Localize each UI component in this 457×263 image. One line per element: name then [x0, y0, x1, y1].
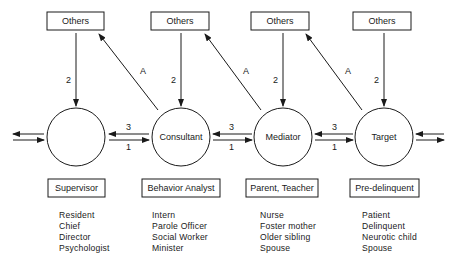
others-label: Others [266, 16, 294, 26]
example-item: Nurse [260, 210, 316, 221]
others-label: Others [166, 16, 194, 26]
node-mediator: Mediator [254, 108, 312, 166]
example-item: Foster mother [260, 221, 316, 232]
example-item: Spouse [362, 243, 417, 254]
node-consultant: Consultant [152, 108, 210, 166]
example-item: Director [59, 232, 110, 243]
role-box-consultant: Behavior Analyst [142, 179, 220, 197]
arrow-a-target-to-others [306, 34, 362, 110]
others-box-mediator: Others [251, 12, 309, 30]
edge-label-2: 2 [374, 75, 379, 85]
example-item: Psychologist [59, 243, 110, 254]
edge-label-a: A [345, 66, 351, 76]
edge-label-3: 3 [332, 122, 337, 132]
role-label: Pre-delinquent [355, 183, 414, 193]
example-item: Delinquent [362, 221, 417, 232]
examples-consultant: Intern Parole Officer Social Worker Mini… [152, 210, 208, 254]
node-target: Target [355, 108, 413, 166]
examples-mediator: Nurse Foster mother Older sibling Spouse [260, 210, 316, 254]
role-box-mediator: Parent, Teacher [246, 179, 318, 197]
edge-label-2: 2 [66, 75, 71, 85]
node-label: Consultant [159, 132, 203, 142]
edge-label-1: 1 [332, 142, 337, 152]
edge-label-1: 1 [126, 142, 131, 152]
arrow-a-mediator-to-others [205, 34, 261, 110]
example-item: Chief [59, 221, 110, 232]
role-box-target: Pre-delinquent [350, 179, 419, 197]
edge-label-3: 3 [126, 122, 131, 132]
example-item: Patient [362, 210, 417, 221]
edge-label-3: 3 [229, 122, 234, 132]
node-label: Target [371, 132, 397, 142]
role-label: Parent, Teacher [250, 183, 313, 193]
example-item: Intern [152, 210, 208, 221]
node-supervisor [47, 108, 105, 166]
edge-label-1: 1 [229, 142, 234, 152]
others-box-supervisor: Others [47, 12, 104, 30]
others-label: Others [368, 16, 396, 26]
others-box-consultant: Others [151, 12, 209, 30]
example-item: Social Worker [152, 232, 208, 243]
example-item: Parole Officer [152, 221, 208, 232]
role-label: Supervisor [55, 183, 98, 193]
edge-label-a: A [243, 66, 249, 76]
arrow-a-consultant-to-others [99, 34, 158, 110]
others-box-target: Others [353, 12, 411, 30]
edge-label-2: 2 [171, 75, 176, 85]
example-item: Older sibling [260, 232, 316, 243]
example-item: Neurotic child [362, 232, 417, 243]
examples-target: Patient Delinquent Neurotic child Spouse [362, 210, 417, 254]
example-item: Spouse [260, 243, 316, 254]
edge-label-2: 2 [273, 75, 278, 85]
role-box-supervisor: Supervisor [48, 179, 105, 197]
others-label: Others [62, 16, 90, 26]
examples-supervisor: Resident Chief Director Psychologist [59, 210, 110, 254]
example-item: Resident [59, 210, 110, 221]
edge-label-a: A [140, 66, 146, 76]
role-label: Behavior Analyst [147, 183, 215, 193]
example-item: Minister [152, 243, 208, 254]
node-label: Mediator [265, 132, 300, 142]
